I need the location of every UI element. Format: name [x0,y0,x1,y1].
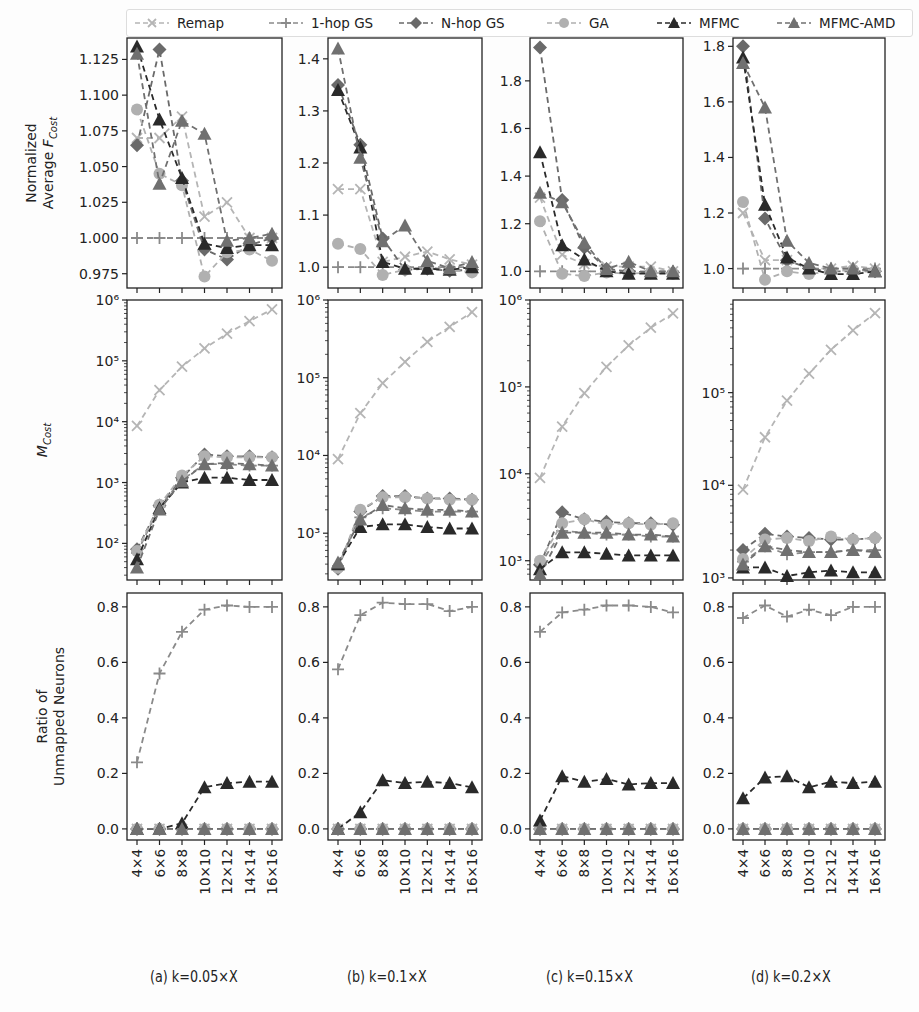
y-tick-label: 10³ [96,475,119,491]
y-tick-label: 1.125 [79,51,119,67]
subplot-d-top: 1.01.21.41.61.8 [703,38,885,293]
caption-c: (c) k=0.15×X [546,968,633,986]
x-tick-label: 10×10 [397,849,413,895]
y-tick-label: 10⁴ [702,477,726,493]
y-tick-label: 0.4 [500,710,522,726]
x-tick-label: 10×10 [197,849,213,895]
y-tick-label: 0.8 [500,599,522,615]
subplot-b-bot: 0.00.20.40.60.84×46×68×810×1012×1214×141… [298,593,482,895]
subplot-a-mid: 10²10³10⁴10⁵10⁶MCost [34,292,282,585]
y-axis-label: Average FCost [40,116,59,209]
x-tick-label: 8×8 [174,849,190,878]
x-tick-label: 14×14 [643,849,659,895]
x-tick-label: 12×12 [621,849,637,895]
x-tick-label: 10×10 [599,849,615,895]
y-tick-label: 0.6 [298,654,320,670]
y-tick-label: 10² [96,535,119,551]
y-tick-label: 1.1 [298,207,320,223]
x-tick-label: 6×6 [152,849,168,878]
y-tick-label: 0.0 [97,821,119,837]
caption-b: (b) k=0.1×X [347,968,427,986]
y-tick-label: 1.2 [298,155,320,171]
subplot-c-mid: 10³10⁴10⁵10⁶ [499,292,683,585]
y-tick-label: 1.8 [703,38,725,54]
y-tick-label: 1.050 [79,159,119,175]
y-tick-label: 10⁵ [499,379,522,395]
y-tick-label: 1.0 [500,263,522,279]
y-tick-label: 0.4 [298,710,320,726]
y-tick-label: 1.0 [298,259,320,275]
figure: 0.9751.0001.0251.0501.0751.1001.125Norma… [0,0,919,960]
x-tick-label: 12×12 [823,849,839,895]
x-tick-label: 16×16 [464,849,480,895]
x-tick-label: 10×10 [801,849,817,895]
y-tick-label: 0.8 [703,599,725,615]
y-tick-label: 1.000 [79,230,119,246]
y-axis-label: MCost [34,422,53,457]
caption-a: (a) k=0.05×X [150,968,238,986]
x-tick-label: 14×14 [442,849,458,895]
x-tick-label: 16×16 [867,849,883,895]
y-tick-label: 0.2 [703,765,725,781]
y-tick-label: 0.0 [298,821,320,837]
y-tick-label: 0.0 [500,821,522,837]
y-tick-label: 10⁶ [297,292,321,308]
y-tick-label: 1.4 [703,149,725,165]
subplot-b-top: 1.01.11.21.31.4 [298,38,482,293]
y-tick-label: 10⁶ [96,292,120,308]
y-tick-label: 1.025 [79,194,119,210]
x-tick-label: 16×16 [264,849,280,895]
x-tick-label: 4×4 [735,849,751,878]
y-tick-label: 0.4 [703,710,725,726]
y-tick-label: 0.6 [97,654,119,670]
y-tick-label: 10⁴ [297,447,321,463]
y-axis-label: Unmapped Neurons [51,647,67,786]
y-tick-label: 10⁴ [499,466,523,482]
x-tick-label: 16×16 [665,849,681,895]
y-tick-label: 1.075 [79,123,119,139]
subplot-d-mid: 10³10⁴10⁵ [702,300,885,586]
x-tick-label: 4×4 [129,849,145,878]
y-tick-label: 1.2 [500,216,522,232]
y-tick-label: 0.0 [703,821,725,837]
subplot-c-bot: 0.00.20.40.60.84×46×68×810×1012×1214×141… [500,593,683,895]
y-tick-label: 0.4 [97,710,119,726]
y-tick-label: 1.6 [703,94,725,110]
y-tick-label: 10³ [297,525,320,541]
y-tick-label: 10⁶ [499,292,523,308]
subplot-a-top: 0.9751.0001.0251.0501.0751.1001.125Norma… [23,38,282,293]
x-tick-label: 12×12 [219,849,235,895]
y-tick-label: 10⁴ [96,414,120,430]
y-axis-label: Normalized [23,123,39,202]
x-tick-label: 14×14 [242,849,258,895]
x-tick-label: 8×8 [779,849,795,878]
y-tick-label: 1.6 [500,120,522,136]
y-tick-label: 0.6 [500,654,522,670]
caption-d: (d) k=0.2×X [751,968,831,986]
y-tick-label: 0.8 [298,599,320,615]
subplot-c-top: 1.01.21.41.61.8 [500,38,683,293]
y-tick-label: 0.975 [79,266,119,282]
y-tick-label: 0.6 [703,654,725,670]
y-tick-label: 1.2 [703,205,725,221]
y-tick-label: 10⁵ [297,370,320,386]
y-tick-label: 10³ [702,570,725,586]
x-tick-label: 8×8 [375,849,391,878]
y-tick-label: 10³ [499,553,522,569]
y-tick-label: 1.4 [298,51,320,67]
x-tick-label: 8×8 [576,849,592,878]
y-tick-label: 10⁵ [96,353,119,369]
x-tick-label: 4×4 [532,849,548,878]
x-tick-label: 6×6 [757,849,773,878]
y-tick-label: 1.0 [703,261,725,277]
y-tick-label: 0.8 [97,599,119,615]
y-tick-label: 0.2 [97,765,119,781]
subplot-d-bot: 0.00.20.40.60.84×46×68×810×1012×1214×141… [703,593,885,895]
x-tick-label: 12×12 [419,849,435,895]
y-tick-label: 0.2 [298,765,320,781]
y-tick-label: 1.8 [500,73,522,89]
x-tick-label: 6×6 [554,849,570,878]
y-tick-label: 1.100 [79,87,119,103]
y-axis-label: Ratio of [34,688,50,743]
x-tick-label: 14×14 [845,849,861,895]
